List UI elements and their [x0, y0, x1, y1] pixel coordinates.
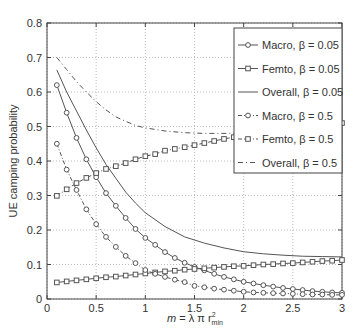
circle-marker [123, 253, 128, 258]
circle-marker [271, 284, 276, 289]
legend-label: Overall, β = 0.5 [262, 157, 337, 169]
square-marker [202, 141, 207, 146]
circle-marker [281, 291, 286, 296]
square-marker [202, 266, 207, 271]
circle-marker [64, 167, 69, 172]
circle-marker [172, 277, 177, 282]
y-tick-label: 0.1 [27, 259, 42, 271]
circle-marker [202, 285, 207, 290]
square-marker [192, 143, 197, 148]
circle-marker [300, 292, 305, 297]
circle-marker [261, 290, 266, 295]
circle-marker [290, 287, 295, 292]
square-marker [271, 262, 276, 267]
chart: 00.511.522.5300.10.20.30.40.50.60.70.8 U… [0, 0, 362, 336]
circle-marker [143, 268, 148, 273]
square-marker [55, 280, 60, 285]
circle-marker [153, 242, 158, 247]
square-marker [84, 176, 89, 181]
circle-marker [271, 291, 276, 296]
y-tick-label: 0.7 [27, 52, 42, 64]
square-marker [74, 278, 79, 283]
circle-marker [222, 287, 227, 292]
circle-marker [84, 157, 89, 162]
square-marker [340, 258, 345, 263]
square-marker [241, 264, 246, 269]
circle-marker [94, 222, 99, 227]
square-marker [173, 147, 178, 152]
circle-marker [123, 216, 128, 221]
square-marker [222, 265, 227, 270]
square-marker [114, 274, 119, 279]
square-marker [143, 154, 148, 159]
circle-marker [182, 260, 187, 265]
circle-marker [84, 207, 89, 212]
square-marker [163, 269, 168, 274]
circle-marker [340, 292, 345, 297]
square-marker [222, 137, 227, 142]
circle-marker [231, 277, 236, 282]
circle-marker [192, 283, 197, 288]
x-tick-label: 2.5 [285, 302, 300, 314]
circle-marker [241, 279, 246, 284]
y-tick-label: 0.2 [27, 224, 42, 236]
circle-marker [64, 110, 69, 115]
circle-marker [163, 275, 168, 280]
circle-marker [54, 141, 59, 146]
circle-marker [241, 289, 246, 294]
series-line [57, 260, 342, 282]
y-tick-label: 0.6 [27, 86, 42, 98]
series-1 [55, 258, 345, 285]
square-marker [232, 264, 237, 269]
y-tick-label: 0.4 [27, 155, 42, 167]
circle-marker [246, 43, 251, 48]
square-marker [64, 279, 69, 284]
square-marker [84, 277, 89, 282]
circle-marker [281, 286, 286, 291]
circle-marker [222, 275, 227, 280]
circle-marker [231, 288, 236, 293]
legend-label: Overall, β = 0.05 [262, 86, 343, 98]
square-marker [74, 181, 79, 186]
circle-marker [54, 83, 59, 88]
y-tick-label: 0.8 [27, 17, 42, 29]
square-marker [173, 268, 178, 273]
circle-marker [172, 256, 177, 261]
circle-marker [290, 291, 295, 296]
square-marker [251, 263, 256, 268]
y-tick-label: 0 [36, 293, 42, 305]
square-marker [104, 275, 109, 280]
square-marker [246, 137, 251, 142]
circle-marker [104, 191, 109, 196]
circle-marker [261, 283, 266, 288]
x-tick-label: 2 [241, 302, 247, 314]
circle-marker [104, 235, 109, 240]
circle-marker [212, 286, 217, 291]
circle-marker [330, 292, 335, 297]
square-marker [246, 66, 251, 71]
square-marker [212, 139, 217, 144]
circle-marker [310, 292, 315, 297]
circle-marker [113, 203, 118, 208]
circle-marker [153, 271, 158, 276]
legend-label: Femto, β = 0.5 [262, 133, 333, 145]
square-marker [212, 265, 217, 270]
circle-marker [246, 113, 251, 118]
square-marker [291, 261, 296, 266]
square-marker [153, 152, 158, 157]
circle-marker [113, 245, 118, 250]
square-marker [320, 259, 325, 264]
square-marker [64, 187, 69, 192]
square-marker [133, 157, 138, 162]
square-marker [133, 272, 138, 277]
circle-marker [251, 281, 256, 286]
square-marker [123, 161, 128, 166]
x-tick-label: 0 [44, 302, 50, 314]
square-marker [94, 171, 99, 176]
square-marker [104, 167, 109, 172]
y-tick-label: 0.3 [27, 190, 42, 202]
circle-marker [133, 227, 138, 232]
square-marker [192, 267, 197, 272]
circle-marker [143, 236, 148, 241]
x-tick-label: 3 [339, 302, 345, 314]
